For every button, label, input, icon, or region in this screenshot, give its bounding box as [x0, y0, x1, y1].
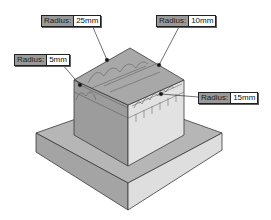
leader-dot-10mm [157, 63, 161, 67]
callout-key: Radius: [42, 16, 74, 26]
leader-dot-25mm [105, 58, 109, 62]
callout-key: Radius: [157, 16, 189, 26]
callout-value: 10mm [189, 16, 215, 26]
callout-value: 15mm [231, 93, 257, 103]
leader-dot-5mm [78, 83, 82, 87]
leader-dot-15mm [159, 92, 163, 96]
callout-value: 5mm [47, 55, 69, 65]
callout-radius-10mm: Radius: 10mm [156, 15, 216, 27]
callout-key: Radius: [199, 93, 231, 103]
callout-value: 25mm [74, 16, 100, 26]
isometric-model [0, 0, 271, 220]
callout-radius-25mm: Radius: 25mm [41, 15, 101, 27]
callout-radius-15mm: Radius: 15mm [198, 92, 258, 104]
callout-key: Radius: [15, 55, 47, 65]
callout-radius-5mm: Radius: 5mm [14, 54, 70, 66]
